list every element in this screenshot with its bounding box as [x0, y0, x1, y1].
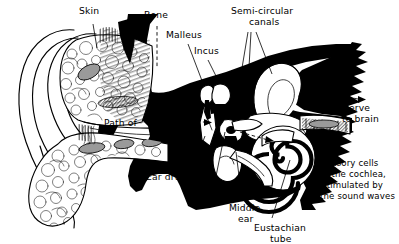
label-skin: Skin	[79, 5, 99, 16]
label-middle-ear-line2: ear	[238, 213, 254, 224]
label-sensory-line1: Sensory cells	[320, 158, 379, 168]
label-semicircular-canals-line1: Semi-circular	[231, 5, 293, 16]
label-waves: waves	[159, 122, 189, 133]
ear-anatomy-illustration: Skin Bone Malleus Incus Semi-circular ca…	[0, 0, 399, 244]
label-ear-drum: Ear drum	[146, 171, 190, 182]
label-nerve-line1: Nerve	[342, 102, 370, 113]
label-path-of: Path of	[104, 117, 138, 128]
label-bone: Bone	[144, 9, 168, 20]
label-sound: Sound	[159, 108, 189, 119]
label-semicircular-canals-line2: canals	[249, 16, 279, 27]
label-sensory-line3: stimulated by	[322, 180, 383, 190]
label-sensory-line4: the sound waves	[320, 191, 395, 201]
label-sensory-line2: of the cochlea,	[320, 169, 386, 179]
incus-bone	[212, 84, 231, 106]
label-eustachian-line2: tube	[270, 233, 292, 244]
label-incus: Incus	[194, 45, 219, 56]
label-nerve-line2: to brain	[342, 113, 379, 124]
label-eustachian-line1: Eustachian	[254, 222, 306, 233]
label-middle-ear-line1: Middle	[229, 202, 260, 213]
label-stapes: Stapes	[198, 184, 230, 195]
ear-anatomy-diagram: Skin Bone Malleus Incus Semi-circular ca…	[0, 0, 399, 244]
label-malleus: Malleus	[166, 29, 202, 40]
